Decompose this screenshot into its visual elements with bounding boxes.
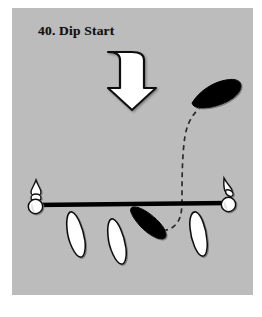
figure-title: 40. Dip Start	[38, 23, 114, 39]
dashed-swing-path	[153, 101, 210, 230]
body-position-start-above-bar	[192, 79, 241, 108]
figure-root: 40. Dip Start	[0, 0, 262, 317]
right-upright-post	[221, 178, 235, 212]
diagram-canvas	[12, 8, 253, 295]
downward-motion-arrow	[108, 52, 156, 110]
body-position-ghost-2	[108, 219, 127, 264]
body-position-ghost-1	[67, 212, 86, 257]
horizontal-bar	[34, 203, 229, 205]
diagram-panel: 40. Dip Start	[12, 8, 253, 295]
left-upright-post	[28, 180, 42, 214]
body-position-ghost-3	[190, 212, 207, 256]
body-position-dip-under-bar	[131, 207, 167, 239]
